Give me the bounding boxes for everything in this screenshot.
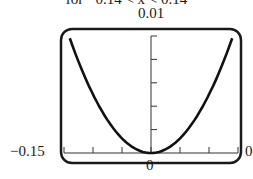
- y-ticks: [151, 36, 157, 130]
- calculator-screen-plot: [0, 0, 253, 179]
